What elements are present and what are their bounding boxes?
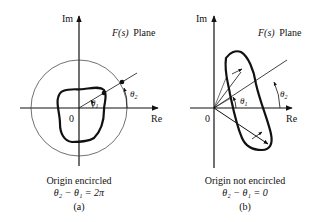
ray-fan-1 <box>214 78 226 108</box>
ray-line <box>79 73 137 108</box>
contour-curve <box>225 51 271 150</box>
theta1-label: θ1 <box>240 96 247 107</box>
tick-lower <box>252 132 262 139</box>
caption-b-tag: (b) <box>239 201 251 213</box>
ray-fan-2 <box>214 98 231 108</box>
caption-a-tag: (a) <box>73 201 84 213</box>
theta2-label: θ2 <box>130 89 137 100</box>
ray-lower <box>214 108 268 144</box>
caption-a-line1: Origin encircled <box>46 175 111 186</box>
origin-label: 0 <box>205 113 210 124</box>
figure-canvas: Im Re 0 F(s) Plane θ1 θ2 Origin encircle… <box>0 0 320 222</box>
plane-label: F(s) Plane <box>111 27 156 39</box>
point-on-contour <box>102 91 107 96</box>
point-on-circle <box>120 80 125 85</box>
theta2-label: θ2 <box>280 89 287 100</box>
panel-a: Im Re 0 F(s) Plane θ1 θ2 Origin encircle… <box>20 13 163 213</box>
im-label: Im <box>62 13 73 24</box>
caption-a-line2: θ₂ − θ₁ = 2π <box>54 187 105 198</box>
im-label: Im <box>196 13 207 24</box>
re-label: Re <box>286 113 298 124</box>
re-label: Re <box>151 113 163 124</box>
caption-b-line2: θ₂ − θ₁ = 0 <box>222 187 267 198</box>
plane-label: F(s) Plane <box>257 27 302 39</box>
theta1-label: θ1 <box>91 98 98 109</box>
panel-b: Im Re 0 F(s) Plane θ1 θ2 Origin not enci… <box>190 13 302 213</box>
caption-b-line1: Origin not encircled <box>205 175 286 186</box>
origin-label: 0 <box>69 113 74 124</box>
